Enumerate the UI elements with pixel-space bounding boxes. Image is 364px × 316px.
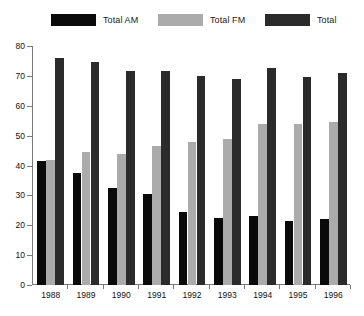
x-axis-label-1994: 1994 [253, 290, 272, 300]
bar-1995-series-1[interactable] [294, 124, 303, 285]
bar-1992-series-1[interactable] [188, 142, 197, 285]
bar-1996-series-2[interactable] [338, 73, 347, 285]
legend-swatch-total [265, 14, 310, 26]
y-axis-tick [27, 46, 32, 47]
x-axis-label-1995: 1995 [289, 290, 308, 300]
bar-1991-series-2[interactable] [161, 71, 170, 285]
legend-swatch-total-fm [158, 14, 203, 26]
bar-1992-series-0[interactable] [179, 212, 188, 285]
y-axis-tick [27, 195, 32, 196]
bar-1992-series-2[interactable] [197, 76, 206, 285]
bar-1994-series-1[interactable] [258, 124, 267, 285]
y-axis-tick-label: 30 [16, 191, 25, 200]
y-axis-tick [27, 136, 32, 137]
bar-1993-series-2[interactable] [232, 79, 241, 285]
y-axis-tick-label: 10 [16, 251, 25, 260]
bar-1991-series-1[interactable] [152, 146, 161, 285]
x-axis-label-1992: 1992 [183, 290, 202, 300]
bar-1993-series-1[interactable] [223, 139, 232, 285]
y-axis-tick-label: 60 [16, 102, 25, 111]
x-axis-tick [350, 285, 351, 289]
bar-1990-series-2[interactable] [126, 71, 135, 285]
legend-label-2: Total [317, 15, 337, 25]
bar-1990-series-0[interactable] [108, 188, 117, 285]
x-axis-label-1991: 1991 [147, 290, 166, 300]
y-axis-tick-label: 0 [20, 281, 25, 290]
bar-1988-series-0[interactable] [37, 161, 46, 285]
bar-1994-series-2[interactable] [267, 68, 276, 285]
chart-legend: Total AMTotal FMTotal [0, 10, 364, 34]
x-axis-label-1996: 1996 [324, 290, 343, 300]
y-axis-tick [27, 76, 32, 77]
legend-item-2[interactable]: Total [265, 14, 337, 26]
x-axis-label-1993: 1993 [218, 290, 237, 300]
y-axis-tick-label: 50 [16, 131, 25, 140]
bar-1989-series-2[interactable] [91, 62, 100, 285]
plot-area: 0102030405060708019881989199019911992199… [32, 46, 350, 285]
bar-1996-series-1[interactable] [329, 122, 338, 285]
x-axis-tick [315, 285, 316, 289]
legend-item-1[interactable]: Total FM [158, 14, 245, 26]
y-axis-tick-label: 70 [16, 72, 25, 81]
y-axis-tick [27, 225, 32, 226]
x-axis-label-1990: 1990 [112, 290, 131, 300]
x-axis-tick [138, 285, 139, 289]
bar-1990-series-1[interactable] [117, 154, 126, 285]
y-axis-tick [27, 285, 32, 286]
y-axis-tick [27, 255, 32, 256]
bar-1996-series-0[interactable] [320, 219, 329, 285]
y-axis-line [32, 46, 33, 285]
legend-swatch-total-am [51, 14, 96, 26]
legend-label-1: Total FM [210, 15, 245, 25]
legend-label-0: Total AM [103, 15, 138, 25]
bar-1995-series-0[interactable] [285, 221, 294, 285]
x-axis-tick [209, 285, 210, 289]
x-axis-tick [67, 285, 68, 289]
y-axis-tick [27, 106, 32, 107]
bar-1988-series-1[interactable] [46, 160, 55, 285]
bar-1988-series-2[interactable] [55, 58, 64, 285]
x-axis-label-1989: 1989 [77, 290, 96, 300]
x-axis-tick [173, 285, 174, 289]
y-axis-tick-label: 40 [16, 161, 25, 170]
x-axis-label-1988: 1988 [41, 290, 60, 300]
bar-1995-series-2[interactable] [303, 77, 312, 285]
bar-1989-series-1[interactable] [82, 152, 91, 285]
legend-item-0[interactable]: Total AM [51, 14, 138, 26]
bar-1994-series-0[interactable] [249, 216, 258, 285]
y-axis-tick-label: 80 [16, 42, 25, 51]
y-axis-tick-label: 20 [16, 221, 25, 230]
bar-1991-series-0[interactable] [143, 194, 152, 285]
y-axis-tick [27, 166, 32, 167]
bar-1989-series-0[interactable] [73, 173, 82, 285]
bar-chart: Total AMTotal FMTotal 010203040506070801… [0, 0, 364, 316]
x-axis-tick [103, 285, 104, 289]
x-axis-tick [244, 285, 245, 289]
x-axis-tick [279, 285, 280, 289]
bar-1993-series-0[interactable] [214, 218, 223, 285]
